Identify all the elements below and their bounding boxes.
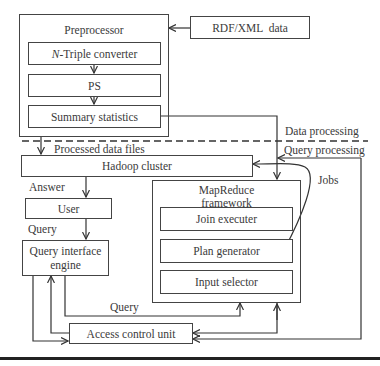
bottom-rule — [0, 357, 380, 360]
user-label: User — [58, 202, 80, 216]
hadoop-cluster-label: Hadoop cluster — [102, 159, 172, 173]
rdf-xml-data-box: RDF/XML data — [190, 16, 310, 39]
ntriple-converter-box: N-Triple converter — [28, 42, 161, 65]
data-processing-label: Data processing — [285, 124, 359, 138]
rdf-xml-label: RDF/XML data — [212, 21, 288, 35]
processed-data-files-label: Processed data files — [54, 142, 145, 156]
mapreduce-title-line1: MapReduce — [153, 183, 300, 197]
arrow-acu-to-qie — [51, 276, 69, 333]
qie-label-line1: Query interface — [30, 244, 102, 258]
query-bottom-label: Query — [110, 300, 139, 314]
plan-generator-box: Plan generator — [160, 239, 293, 263]
query-user-label: Query — [28, 222, 57, 236]
hadoop-cluster-box: Hadoop cluster — [21, 155, 253, 177]
access-control-unit-label: Access control unit — [87, 327, 176, 341]
ntriple-label: -Triple converter — [59, 48, 137, 60]
plan-generator-label: Plan generator — [193, 244, 260, 258]
input-selector-label: Input selector — [195, 275, 258, 289]
ps-label: PS — [88, 79, 101, 93]
answer-label: Answer — [29, 180, 65, 194]
join-executer-label: Join executer — [196, 212, 257, 226]
input-selector-box: Input selector — [160, 270, 293, 294]
query-processing-label: Query processing — [284, 143, 365, 157]
arrow-mapreduce-to-acu — [193, 303, 277, 333]
summary-statistics-box: Summary statistics — [28, 105, 161, 128]
preprocessor-title: Preprocessor — [20, 23, 168, 37]
qie-label-line2: engine — [50, 258, 81, 272]
summary-statistics-label: Summary statistics — [51, 110, 138, 124]
join-executer-box: Join executer — [160, 207, 293, 231]
query-interface-engine-box: Query interface engine — [22, 240, 109, 276]
user-box: User — [25, 198, 112, 219]
jobs-label: Jobs — [318, 173, 338, 187]
ps-box: PS — [28, 74, 161, 97]
access-control-unit-box: Access control unit — [69, 323, 193, 344]
